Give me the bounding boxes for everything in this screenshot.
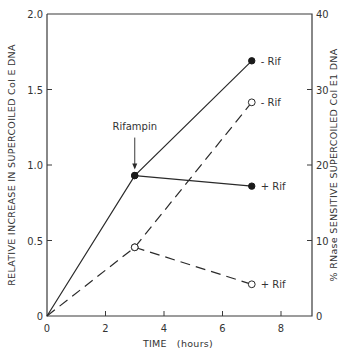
series-line-0 — [47, 61, 252, 316]
data-point — [132, 172, 138, 178]
x-tick-label: 8 — [278, 322, 284, 335]
y-left-tick-label: 1.5 — [27, 84, 43, 97]
y-right-tick-label: 0 — [316, 310, 322, 323]
data-point — [249, 58, 255, 64]
y-right-tick-label: 30 — [316, 84, 329, 97]
series-label: + Rif — [261, 181, 286, 192]
markers — [131, 58, 255, 288]
series-label: - Rif — [261, 56, 282, 67]
series-label: - Rif — [261, 97, 282, 108]
x-axis-title: TIME (hours) — [142, 338, 213, 349]
data-point — [131, 244, 138, 251]
y-right-axis-title: % RNase SENSITIVE SUPERCOILED Col E1 DNA — [328, 48, 339, 281]
series-label: + Rif — [261, 279, 286, 290]
y-right-tick-label: 10 — [316, 235, 329, 248]
data-point — [248, 281, 255, 288]
y-left-tick-label: 1.0 — [27, 159, 43, 172]
x-tick-label: 6 — [219, 322, 225, 335]
y-left-tick-label: 2.0 — [27, 8, 43, 21]
annotation-arrow-head — [132, 164, 137, 170]
series-line-2 — [47, 102, 252, 316]
data-point — [249, 183, 255, 189]
y-right-tick-label: 20 — [316, 159, 329, 172]
series-line-1 — [135, 176, 252, 187]
rifampin-annotation: Rifampin — [112, 121, 157, 132]
data-point — [248, 99, 255, 106]
x-tick-label: 0 — [44, 322, 50, 335]
y-left-axis-title: RELATIVE INCREASE IN SUPERCOILED Col E D… — [6, 44, 17, 286]
y-left-tick-label: 0 — [37, 310, 43, 323]
labels: - Rif+ Rif- Rif+ RifRifampin — [112, 56, 286, 290]
x-tick-label: 4 — [161, 322, 167, 335]
y-right-tick-label: 40 — [316, 8, 329, 21]
chart: 0246800.51.01.52.0010203040 - Rif+ Rif- … — [0, 0, 344, 359]
y-left-tick-label: 0.5 — [27, 235, 43, 248]
series-line-3 — [135, 247, 252, 284]
series-layer — [47, 61, 252, 316]
x-tick-label: 2 — [102, 322, 108, 335]
